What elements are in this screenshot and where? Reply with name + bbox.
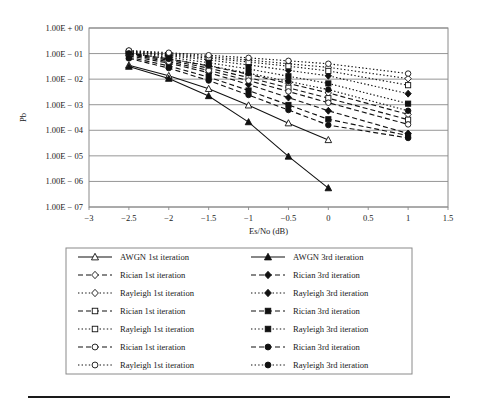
data-point-marker-diamond xyxy=(405,90,411,97)
data-point-marker-circle xyxy=(166,65,172,71)
data-point-marker-diamond xyxy=(325,107,331,114)
data-point-marker-circle xyxy=(286,89,292,95)
legend-label: Rayleigh 3rd iteration xyxy=(293,288,369,298)
data-point-marker-circle xyxy=(246,78,252,84)
data-point-marker-square xyxy=(92,308,98,314)
legend-label: Rician 1st iteration xyxy=(120,342,186,352)
ber-performance-chart: 1.00E + 001.00E − 011.00E − 021.00E − 03… xyxy=(0,0,478,406)
data-point-marker-circle xyxy=(166,50,172,56)
plot-frame xyxy=(89,28,448,207)
y-axis-ticklabels: 1.00E + 001.00E − 011.00E − 021.00E − 03… xyxy=(45,23,83,212)
y-ticklabel: 1.00E − 02 xyxy=(45,74,83,84)
data-point-marker-circle xyxy=(265,344,271,350)
legend-label: Rayleigh 1st iteration xyxy=(120,360,195,370)
legend-label: Rayleigh 1st iteration xyxy=(120,288,195,298)
legend-label: Rician 3rd iteration xyxy=(293,270,361,280)
y-ticklabel: 1.00E − 04 xyxy=(45,125,83,135)
data-point-marker-square xyxy=(286,74,291,79)
data-point-marker-circle xyxy=(405,122,411,128)
data-point-marker-circle xyxy=(126,51,132,57)
y-axis-title: Pb xyxy=(18,113,28,122)
data-point-marker-square xyxy=(406,101,411,106)
data-point-marker-square xyxy=(406,83,411,88)
legend-item-1-right[interactable]: Rician 3rd iteration xyxy=(251,270,361,280)
data-point-marker-square xyxy=(326,68,331,73)
data-point-marker-circle xyxy=(206,63,212,69)
figure-container: 1.00E + 001.00E − 011.00E − 021.00E − 03… xyxy=(0,0,478,406)
data-point-marker-circle xyxy=(405,135,411,141)
caption-divider-rule xyxy=(28,396,450,398)
legend-label: Rayleigh 3rd iteration xyxy=(293,324,369,334)
y-ticklabel: 1.00E − 07 xyxy=(45,202,83,212)
data-point-marker-circle xyxy=(326,100,332,106)
x-ticklabel: 0.5 xyxy=(363,213,374,223)
data-point-marker-circle xyxy=(286,79,292,85)
data-point-marker-circle xyxy=(326,87,332,93)
legend-label: AWGN 3rd iteration xyxy=(293,252,364,262)
legend-label: Rician 3rd iteration xyxy=(293,342,361,352)
series-10 xyxy=(126,52,411,127)
data-point-marker-circle xyxy=(265,362,271,368)
data-point-marker-triangle xyxy=(245,119,252,125)
x-ticklabel: −0.5 xyxy=(281,213,296,223)
data-point-marker-square xyxy=(265,326,271,332)
data-point-marker-triangle xyxy=(325,185,332,191)
data-point-marker-square xyxy=(265,308,271,314)
legend-label: Rayleigh 3rd iteration xyxy=(293,360,369,370)
series-line xyxy=(129,65,328,140)
data-point-marker-square xyxy=(286,64,291,69)
legend-item-2-left[interactable]: Rayleigh 1st iteration xyxy=(78,288,195,298)
data-point-marker-circle xyxy=(92,344,98,350)
legend-label: Rician 3rd iteration xyxy=(293,306,361,316)
data-point-marker-circle xyxy=(166,56,172,62)
data-point-marker-diamond xyxy=(285,94,291,101)
series-1 xyxy=(126,63,332,191)
grid-lines xyxy=(89,28,448,207)
data-point-marker-circle xyxy=(206,78,212,84)
legend-label: AWGN 1st iteration xyxy=(120,252,190,262)
data-point-marker-circle xyxy=(246,92,252,98)
data-point-marker-circle xyxy=(286,107,292,113)
x-ticklabel: −2 xyxy=(164,213,173,223)
data-point-marker-circle xyxy=(246,70,252,76)
legend-label: Rayleigh 1st iteration xyxy=(120,324,195,334)
x-ticklabel: −3 xyxy=(84,213,93,223)
legend-label: Rician 1st iteration xyxy=(120,270,186,280)
x-ticklabel: −2.5 xyxy=(121,213,136,223)
legend-label: Rician 1st iteration xyxy=(120,306,186,316)
data-point-marker-circle xyxy=(326,122,332,128)
x-axis-title: Es/No (dB) xyxy=(249,226,288,236)
data-point-marker-circle xyxy=(326,61,332,67)
data-point-marker-circle xyxy=(405,108,411,114)
data-point-marker-square xyxy=(92,326,98,332)
y-ticklabel: 1.00E − 03 xyxy=(45,100,83,110)
x-ticklabel: 1 xyxy=(406,213,410,223)
data-point-marker-square xyxy=(286,102,291,107)
y-ticklabel: 1.00E − 06 xyxy=(45,176,83,186)
data-point-marker-triangle xyxy=(325,136,332,142)
data-point-marker-square xyxy=(326,117,331,122)
data-point-marker-triangle xyxy=(285,120,292,126)
data-point-marker-circle xyxy=(206,52,212,58)
x-ticklabel: 1.5 xyxy=(443,213,454,223)
data-point-marker-circle xyxy=(405,71,411,77)
data-point-marker-circle xyxy=(92,362,98,368)
y-ticklabel: 1.00E − 01 xyxy=(45,49,83,59)
x-axis-ticklabels: −3−2.5−2−1.5−1−0.500.511.5 xyxy=(84,207,453,223)
y-ticklabel: 1.00E − 05 xyxy=(45,151,83,161)
data-point-marker-circle xyxy=(286,58,292,64)
x-ticklabel: −1 xyxy=(244,213,253,223)
data-point-marker-circle xyxy=(246,55,252,61)
series-group xyxy=(126,48,412,191)
x-ticklabel: 0 xyxy=(326,213,330,223)
legend-box xyxy=(66,248,412,374)
x-ticklabel: −1.5 xyxy=(201,213,216,223)
data-point-marker-square xyxy=(326,81,331,86)
y-ticklabel: 1.00E + 00 xyxy=(45,23,83,33)
data-point-marker-triangle xyxy=(205,93,212,99)
